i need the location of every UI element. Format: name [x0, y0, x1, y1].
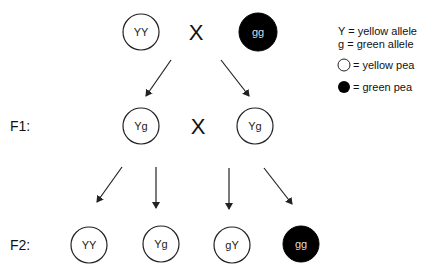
green-pea-icon: [338, 81, 350, 93]
f1-label: F1:: [10, 118, 30, 134]
genotype-label: Yg: [134, 120, 147, 132]
legend-yellow-allele: Y = yellow allele: [338, 25, 417, 37]
cross-symbol: X: [189, 20, 204, 45]
legend-green-pea: = green pea: [353, 81, 413, 93]
f2-label: F2:: [10, 237, 30, 253]
yellow-pea-icon: [338, 59, 350, 71]
f1-left-pea: Yg: [123, 108, 159, 144]
f1-right-pea: Yg: [237, 108, 273, 144]
parent-yy-pea: YY: [123, 14, 159, 50]
arrow: [97, 167, 122, 202]
cross-symbol: X: [191, 114, 206, 139]
arrow: [146, 60, 171, 96]
cross-diagram: YY X gg F1: Yg X Yg F2: YY Yg gY gg Y =: [0, 0, 431, 272]
f2-pea-3: gY: [214, 227, 250, 263]
genotype-label: gg: [252, 26, 264, 38]
arrow: [264, 168, 292, 204]
genotype-label: Yg: [154, 238, 167, 250]
f2-pea-4: gg: [283, 226, 319, 262]
genotype-label: gY: [225, 239, 239, 251]
legend-green-allele: g = green allele: [338, 38, 414, 50]
genotype-label: Yg: [248, 120, 261, 132]
genotype-label: YY: [82, 239, 97, 251]
legend-yellow-pea: = yellow pea: [353, 59, 415, 71]
genotype-label: YY: [134, 26, 149, 38]
parent-gg-pea: gg: [239, 13, 277, 51]
genotype-label: gg: [295, 238, 307, 250]
f2-pea-1: YY: [71, 227, 107, 263]
f2-pea-2: Yg: [143, 226, 179, 262]
arrow: [221, 60, 249, 96]
legend: Y = yellow allele g = green allele = yel…: [338, 25, 417, 93]
